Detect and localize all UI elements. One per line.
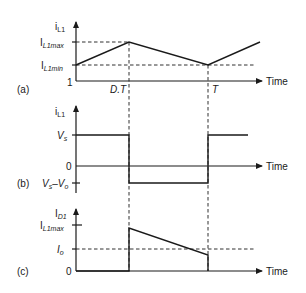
panel-b-neg-label: Vs–Vo [42, 178, 68, 190]
panel-c-zero: 0 [66, 266, 72, 277]
panel-a-min-label: IL1min [41, 60, 63, 72]
panel-c-time-label: Time [266, 266, 288, 277]
t-marker-label: T [212, 84, 219, 95]
panel-a-tag: (a) [17, 84, 29, 95]
panel-c-ylabel: ID1 [55, 208, 67, 220]
inductor-voltage-waveform [76, 135, 248, 183]
diode-current-waveform [76, 228, 208, 271]
boost-converter-waveforms: iL1 IL1max IL1min 1 (a) D.T T Time iL1 V… [0, 0, 306, 293]
panel-b-time-label: Time [266, 161, 288, 172]
panel-b: iL1 Vs 0 Vs–Vo (b) Time [17, 106, 288, 193]
panel-a-time-label: Time [266, 76, 288, 87]
panel-b-zero: 0 [66, 161, 72, 172]
panel-c-tag: (c) [17, 266, 29, 277]
panel-a: iL1 IL1max IL1min 1 (a) D.T T Time [17, 21, 288, 95]
panel-c-io-label: Io [57, 244, 64, 256]
dt-marker-label: D.T [110, 84, 127, 95]
panel-b-vs-label: Vs [57, 130, 68, 142]
panel-a-max-label: IL1max [40, 37, 64, 49]
panel-b-tag: (b) [17, 178, 29, 189]
panel-c-max-label: IL1max [40, 220, 64, 232]
inductor-current-waveform [76, 42, 260, 65]
panel-c: ID1 IL1max Io 0 (c) Time [17, 208, 288, 277]
panel-b-ylabel: iL1 [55, 106, 65, 118]
panel-a-origin: 1 [67, 77, 73, 88]
panel-a-ylabel: iL1 [55, 21, 65, 33]
